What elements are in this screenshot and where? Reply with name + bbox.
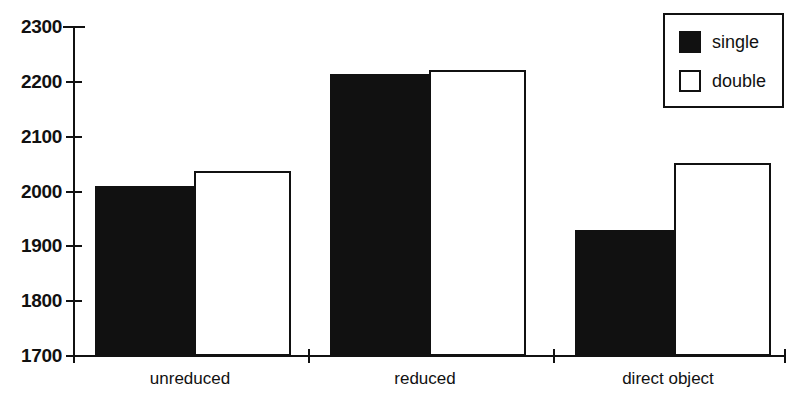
legend-item-single: single bbox=[679, 31, 759, 53]
x-tick bbox=[553, 349, 555, 363]
x-tick bbox=[73, 349, 75, 363]
bar-direct-object-single bbox=[575, 230, 676, 356]
x-tick bbox=[308, 349, 310, 363]
legend-box: single double bbox=[663, 13, 784, 108]
y-tick bbox=[66, 300, 82, 302]
y-tick-label: 1900 bbox=[0, 236, 62, 255]
legend-label-double: double bbox=[712, 71, 766, 92]
y-tick bbox=[63, 26, 85, 28]
bar-reduced-single bbox=[330, 74, 431, 356]
y-tick-label: 1700 bbox=[0, 346, 62, 365]
x-tick-label-direct-object: direct object bbox=[622, 369, 714, 389]
y-tick-label: 2000 bbox=[0, 182, 62, 201]
x-tick-label-unreduced: unreduced bbox=[150, 369, 230, 389]
x-tick-label-reduced: reduced bbox=[394, 369, 455, 389]
y-tick-label: 2200 bbox=[0, 72, 62, 91]
hollow-square-icon bbox=[679, 70, 701, 92]
bar-unreduced-single bbox=[95, 186, 196, 356]
y-tick bbox=[66, 136, 82, 138]
y-tick-label: 2300 bbox=[0, 17, 62, 36]
y-tick bbox=[66, 245, 82, 247]
bar-direct-object-double bbox=[674, 163, 771, 356]
y-tick bbox=[66, 81, 82, 83]
y-tick bbox=[66, 191, 82, 193]
legend-label-single: single bbox=[712, 32, 759, 53]
filled-square-icon bbox=[679, 31, 701, 53]
y-tick-label: 1800 bbox=[0, 291, 62, 310]
legend-item-double: double bbox=[679, 70, 766, 92]
x-tick bbox=[784, 349, 786, 363]
bar-unreduced-double bbox=[194, 171, 291, 356]
bar-chart: 1700180019002000210022002300 unreducedre… bbox=[0, 0, 800, 405]
bar-reduced-double bbox=[429, 70, 526, 356]
y-tick-label: 2100 bbox=[0, 127, 62, 146]
